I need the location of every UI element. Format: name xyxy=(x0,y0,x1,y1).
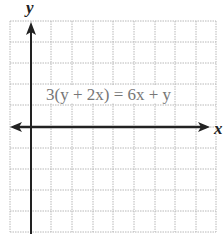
equation-label: 3(y + 2x) = 6x + y xyxy=(44,86,173,103)
coordinate-grid xyxy=(0,0,224,234)
x-axis-label: x xyxy=(214,120,223,137)
x-axis xyxy=(10,122,210,132)
y-axis-label: y xyxy=(26,0,34,16)
